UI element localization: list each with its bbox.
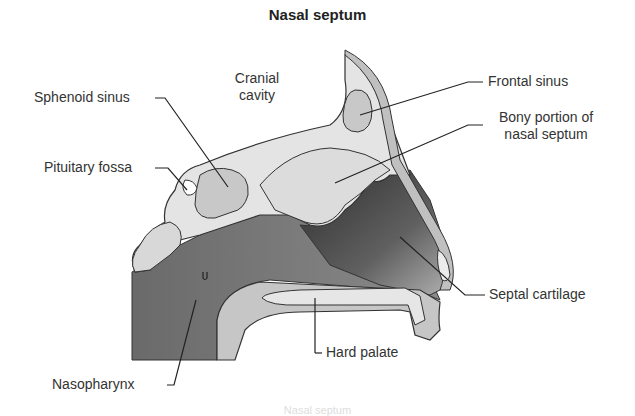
label-bony-line2: nasal septum: [486, 126, 606, 143]
label-frontal-sinus: Frontal sinus: [488, 73, 568, 90]
label-sphenoid-sinus: Sphenoid sinus: [34, 89, 130, 106]
label-nasopharynx: Nasopharynx: [52, 376, 135, 393]
label-pituitary-fossa: Pituitary fossa: [44, 159, 132, 176]
label-septal-cartilage: Septal cartilage: [489, 286, 586, 303]
frontal-sinus-shape: [343, 90, 372, 132]
label-cranial-line1: Cranial: [222, 70, 292, 87]
label-cranial-line2: cavity: [222, 87, 292, 104]
label-bony-portion: Bony portion of nasal septum: [486, 109, 606, 143]
label-cranial-cavity: Cranial cavity: [222, 70, 292, 104]
figure-caption: Nasal septum: [0, 404, 635, 416]
label-hard-palate: Hard palate: [326, 344, 398, 361]
label-bony-line1: Bony portion of: [486, 109, 606, 126]
